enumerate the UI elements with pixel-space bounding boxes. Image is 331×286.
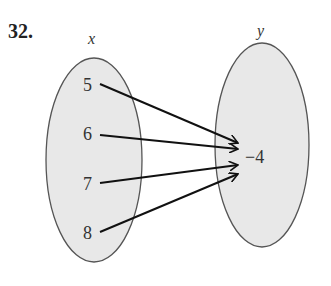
domain-value-6: 6 <box>83 124 92 144</box>
range-ellipse <box>215 43 309 247</box>
domain-value-7: 7 <box>83 174 92 194</box>
range-value-neg4: −4 <box>245 147 264 167</box>
domain-value-5: 5 <box>83 75 92 95</box>
mapping-diagram: x y 5 6 7 8 −4 <box>0 0 331 286</box>
domain-ellipse <box>46 58 142 262</box>
domain-label: x <box>87 30 95 47</box>
domain-value-8: 8 <box>83 223 92 243</box>
range-label: y <box>255 22 265 40</box>
